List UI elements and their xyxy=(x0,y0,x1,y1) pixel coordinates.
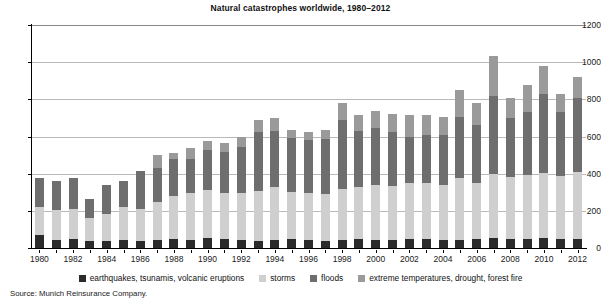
bar-segment-2003-2 xyxy=(422,135,431,183)
bar-segment-1987-1 xyxy=(153,202,162,240)
bar-1992[interactable] xyxy=(237,137,246,248)
bar-2006[interactable] xyxy=(472,103,481,248)
bar-segment-2004-2 xyxy=(439,135,448,185)
bar-1988[interactable] xyxy=(169,153,178,248)
bar-1983[interactable] xyxy=(85,199,94,248)
bar-segment-1997-0 xyxy=(321,241,330,248)
bar-1998[interactable] xyxy=(338,103,347,248)
bar-2001[interactable] xyxy=(388,114,397,248)
bar-segment-2004-0 xyxy=(439,240,448,248)
legend-swatch-0 xyxy=(79,275,86,282)
bar-2004[interactable] xyxy=(439,117,448,248)
bar-1995[interactable] xyxy=(287,130,296,248)
x-tick-1987 xyxy=(157,250,158,253)
plot-area xyxy=(31,25,586,248)
legend-label-3: extreme temperatures, drought, forest fi… xyxy=(369,274,522,283)
bar-segment-1996-0 xyxy=(304,240,313,248)
bar-segment-1982-0 xyxy=(69,239,78,248)
bar-segment-1980-2 xyxy=(35,178,44,207)
bar-1981[interactable] xyxy=(52,181,61,248)
bar-segment-1982-1 xyxy=(69,209,78,239)
legend-item-1[interactable]: storms xyxy=(259,274,295,283)
bar-1982[interactable] xyxy=(69,178,78,248)
x-tick-label-1980: 1980 xyxy=(24,254,54,264)
bar-2000[interactable] xyxy=(371,111,380,248)
bar-1990[interactable] xyxy=(203,141,212,248)
bar-1986[interactable] xyxy=(136,171,145,248)
bar-segment-2009-2 xyxy=(523,112,532,174)
bar-1994[interactable] xyxy=(270,118,279,248)
bar-segment-1998-1 xyxy=(338,189,347,239)
x-tick-2009 xyxy=(527,250,528,253)
bar-segment-1989-1 xyxy=(186,193,195,239)
x-tick-1991 xyxy=(224,250,225,253)
bar-2009[interactable] xyxy=(523,85,532,248)
x-tick-1983 xyxy=(90,250,91,253)
y-tick-mark-200 xyxy=(28,211,32,212)
legend-swatch-3 xyxy=(358,275,365,282)
bar-2002[interactable] xyxy=(405,115,414,248)
bar-segment-2005-1 xyxy=(455,178,464,239)
bar-segment-1992-2 xyxy=(237,147,246,193)
bar-segment-1989-3 xyxy=(186,148,195,159)
bar-2010[interactable] xyxy=(539,66,548,248)
bar-1985[interactable] xyxy=(119,181,128,248)
bar-1987[interactable] xyxy=(153,155,162,248)
legend-item-0[interactable]: earthquakes, tsunamis, volcanic eruption… xyxy=(79,274,245,283)
bar-segment-1993-1 xyxy=(254,191,263,240)
bar-2011[interactable] xyxy=(556,94,565,248)
bar-segment-1990-3 xyxy=(203,141,212,149)
bar-segment-2008-3 xyxy=(506,98,515,118)
bar-1980[interactable] xyxy=(35,178,44,248)
bar-segment-1998-0 xyxy=(338,240,347,248)
x-tick-2000 xyxy=(376,250,377,253)
bar-segment-2003-0 xyxy=(422,239,431,248)
bar-1989[interactable] xyxy=(186,148,195,248)
bar-1997[interactable] xyxy=(321,130,330,248)
bar-segment-2008-1 xyxy=(506,177,515,238)
bar-2005[interactable] xyxy=(455,90,464,248)
bar-segment-1998-3 xyxy=(338,103,347,120)
y-tick-mark-800 xyxy=(28,99,32,100)
bar-segment-1998-2 xyxy=(338,120,347,190)
bar-1999[interactable] xyxy=(354,115,363,248)
x-tick-1994 xyxy=(275,250,276,253)
y-tick-label-400: 400 xyxy=(575,170,601,179)
bar-segment-1995-1 xyxy=(287,192,296,238)
bar-segment-1981-0 xyxy=(52,240,61,248)
bar-1996[interactable] xyxy=(304,132,313,248)
bar-segment-1997-1 xyxy=(321,194,330,240)
bar-segment-1985-1 xyxy=(119,207,128,240)
x-tick-2012 xyxy=(578,250,579,253)
bar-segment-1991-0 xyxy=(220,239,229,248)
bar-segment-1999-2 xyxy=(354,131,363,187)
x-tick-label-2006: 2006 xyxy=(462,254,492,264)
bar-segment-2000-0 xyxy=(371,240,380,248)
bar-1993[interactable] xyxy=(254,120,263,248)
legend-swatch-1 xyxy=(259,275,266,282)
bar-segment-2006-2 xyxy=(472,125,481,183)
x-tick-2008 xyxy=(510,250,511,253)
bar-segment-2001-0 xyxy=(388,240,397,248)
bar-segment-1991-2 xyxy=(220,152,229,193)
bar-segment-2009-0 xyxy=(523,239,532,248)
bar-segment-1994-0 xyxy=(270,240,279,248)
bar-1984[interactable] xyxy=(102,185,111,248)
bar-segment-2002-0 xyxy=(405,239,414,248)
chart-legend: earthquakes, tsunamis, volcanic eruption… xyxy=(0,271,601,285)
legend-item-2[interactable]: floods xyxy=(310,274,343,283)
x-tick-label-2002: 2002 xyxy=(394,254,424,264)
bar-segment-2007-0 xyxy=(489,238,498,248)
bar-1991[interactable] xyxy=(220,143,229,248)
bar-2003[interactable] xyxy=(422,115,431,248)
bar-2008[interactable] xyxy=(506,98,515,248)
bar-segment-2007-2 xyxy=(489,96,498,174)
x-tick-label-2004: 2004 xyxy=(428,254,458,264)
bar-segment-1999-3 xyxy=(354,115,363,131)
bar-segment-1999-0 xyxy=(354,239,363,248)
bar-segment-1984-2 xyxy=(102,185,111,214)
legend-item-3[interactable]: extreme temperatures, drought, forest fi… xyxy=(358,274,522,283)
bar-segment-1988-1 xyxy=(169,196,178,239)
x-tick-2001 xyxy=(393,250,394,253)
bar-2007[interactable] xyxy=(489,56,498,248)
